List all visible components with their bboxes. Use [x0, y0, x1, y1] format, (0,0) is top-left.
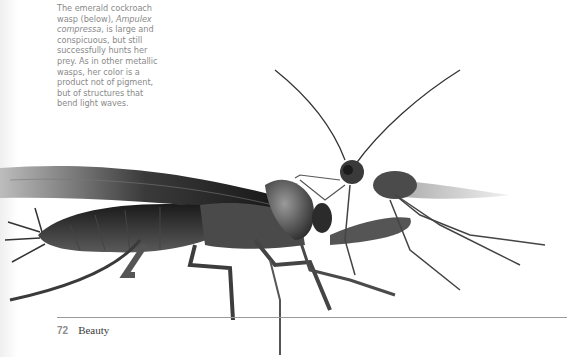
page-footer: 72 Beauty — [57, 324, 109, 336]
page-number: 72 — [57, 325, 68, 336]
wasp-cockroach-illustration — [0, 0, 567, 357]
running-head: Beauty — [78, 324, 109, 336]
footer-rule — [57, 317, 567, 318]
emerald-cockroach-wasp — [275, 70, 545, 290]
